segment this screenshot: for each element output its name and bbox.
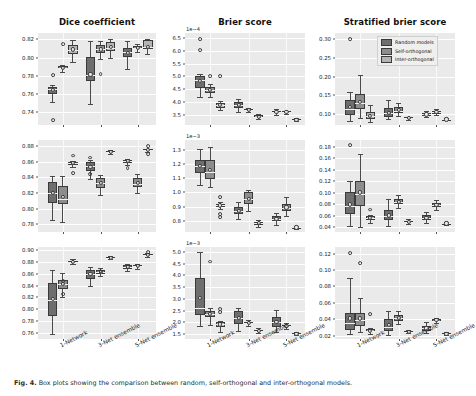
y-tick-mark <box>183 334 185 335</box>
outlier-point <box>51 118 55 122</box>
legend-item[interactable]: Inter-orthogonal <box>381 56 434 63</box>
box-random <box>86 57 96 81</box>
whisker-cap-lower <box>368 122 373 123</box>
y-tick-label: 0.20 <box>301 74 331 80</box>
y-tick-mark <box>183 114 185 115</box>
outlier-point <box>61 279 65 283</box>
panel-title: Dice coefficient <box>38 17 156 27</box>
legend-item[interactable]: Random models <box>381 39 434 46</box>
y-tick-mark <box>36 333 38 334</box>
x-tick-mark <box>210 232 211 234</box>
whisker-cap-lower <box>108 58 113 59</box>
outlier-point <box>99 269 103 273</box>
y-tick-mark <box>36 57 38 58</box>
outlier-point <box>71 171 75 175</box>
whisker-cap-upper <box>218 321 223 322</box>
x-tick-mark <box>286 125 287 127</box>
whisker-cap-lower <box>236 331 241 332</box>
whisker-cap-upper <box>197 252 202 253</box>
whisker-cap-lower <box>60 72 65 73</box>
whisker-cap-lower <box>197 185 202 186</box>
whisker-cap-lower <box>236 112 241 113</box>
y-tick-label: 0.25 <box>301 55 331 61</box>
y-tick-mark <box>333 335 335 336</box>
y-tick-label: 0.90 <box>4 247 34 253</box>
x-tick-mark <box>138 232 139 234</box>
y-tick-mark <box>183 298 185 299</box>
median-line <box>195 308 205 309</box>
y-tick-mark <box>36 146 38 147</box>
y-tick-label: 5.0 <box>151 249 181 255</box>
y-tick-mark <box>333 270 335 271</box>
whisker-cap-upper <box>368 105 373 106</box>
whisker-cap-upper <box>50 270 55 271</box>
x-tick-mark <box>399 125 400 127</box>
x-tick-mark <box>436 232 437 234</box>
boxplot-panel-row2-col3: 0.040.060.080.100.120.140.160.18 <box>335 140 455 232</box>
whisker-cap-upper <box>88 160 93 161</box>
outlier-point <box>368 208 372 212</box>
legend-item[interactable]: Self-orthogonal <box>381 48 434 55</box>
whisker-cap-upper <box>347 181 352 182</box>
whisker-cap-upper <box>358 75 363 76</box>
y-tick-label: 0.14 <box>301 167 331 173</box>
whisker-cap-lower <box>396 324 401 325</box>
outlier-point <box>208 260 212 264</box>
boxplot-panel-row3-col1: 0.760.780.800.820.840.860.880.901-Networ… <box>38 247 156 339</box>
y-tick-label: 1.1 <box>151 175 181 181</box>
whisker-cap-lower <box>60 222 65 223</box>
y-tick-mark <box>333 181 335 182</box>
y-tick-mark <box>36 177 38 178</box>
x-tick-mark <box>436 125 437 127</box>
plot-area <box>185 33 305 125</box>
y-tick-mark <box>333 302 335 303</box>
legend-label: Self-orthogonal <box>395 49 432 54</box>
y-tick-mark <box>183 192 185 193</box>
x-tick-mark <box>63 232 64 234</box>
y-tick-label: 0.30 <box>301 36 331 42</box>
y-tick-mark <box>36 249 38 250</box>
outlier-point <box>89 156 93 160</box>
whisker-cap-lower <box>60 297 65 298</box>
y-tick-label: 0.12 <box>301 251 331 257</box>
whisker-cap-upper <box>98 41 103 42</box>
y-tick-mark <box>183 63 185 64</box>
y-tick-mark <box>36 75 38 76</box>
outlier-point <box>51 73 55 77</box>
y-tick-mark <box>333 286 335 287</box>
plot-area <box>185 140 305 232</box>
whisker-cap-lower <box>246 326 251 327</box>
whisker-cap-upper <box>396 103 401 104</box>
whisker-cap-lower <box>50 334 55 335</box>
y-tick-mark <box>36 285 38 286</box>
y-tick-label: 0.06 <box>301 300 331 306</box>
whisker-cap-lower <box>396 208 401 209</box>
y-tick-label: 4.0 <box>151 99 181 105</box>
whisker-cap-upper <box>424 322 429 323</box>
y-tick-mark <box>183 287 185 288</box>
axis-offset-text: 1e−3 <box>186 133 200 139</box>
whisker-cap-lower <box>88 286 93 287</box>
outlier-point <box>218 75 222 79</box>
y-tick-label: 3.0 <box>151 296 181 302</box>
box-random <box>345 313 355 330</box>
y-tick-mark <box>36 273 38 274</box>
whisker-cap-lower <box>358 227 363 228</box>
whisker-cap-lower <box>218 209 223 210</box>
x-tick-mark <box>138 125 139 127</box>
whisker-cap-lower <box>396 116 401 117</box>
legend-label: Inter-orthogonal <box>395 57 434 62</box>
y-tick-label: 0.10 <box>301 190 331 196</box>
whisker-cap-lower <box>358 332 363 333</box>
outlier-point <box>61 42 65 46</box>
y-tick-label: 6.5 <box>151 35 181 41</box>
outlier-point <box>368 312 372 316</box>
outlier-point <box>208 74 212 78</box>
x-tick-mark <box>210 125 211 127</box>
y-tick-label: 0.80 <box>4 206 34 212</box>
boxplot-panel-row1-col1: 0.740.760.780.800.82Dice coefficient <box>38 33 156 125</box>
whisker-cap-upper <box>60 176 65 177</box>
outlier-point <box>71 154 75 158</box>
legend-swatch-icon <box>381 48 392 55</box>
y-tick-label: 1.3 <box>151 147 181 153</box>
